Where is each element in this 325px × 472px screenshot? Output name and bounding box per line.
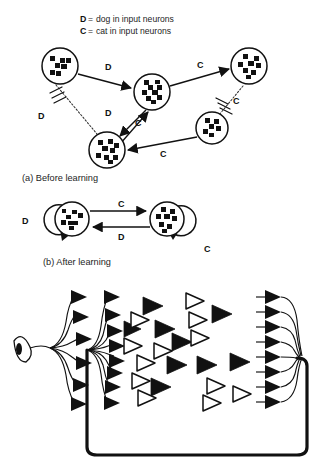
edge-label-d-backward: D bbox=[118, 232, 125, 242]
neuron-top-right bbox=[231, 48, 267, 84]
legend-key-c: C bbox=[80, 26, 87, 36]
neuron-right bbox=[150, 202, 184, 236]
figure-container: D = dog in input neurons C = cat in inpu… bbox=[0, 0, 325, 472]
edge-bottom-to-center bbox=[120, 112, 148, 144]
edge-center-to-topright bbox=[170, 69, 229, 86]
edge-center-to-bottom bbox=[120, 110, 146, 136]
hatch-mark-left bbox=[50, 87, 66, 103]
legend-text-c: cat in input neurons bbox=[96, 26, 171, 36]
legend-eq-c: = bbox=[88, 26, 93, 36]
edge-label-c-top: C bbox=[197, 60, 204, 70]
self-loop-label-c: C bbox=[204, 244, 211, 254]
output-layer-arrows bbox=[265, 290, 281, 409]
eye-icon bbox=[14, 337, 50, 362]
edge-label-d-top: D bbox=[105, 62, 112, 72]
legend-text-d: dog in input neurons bbox=[96, 14, 174, 24]
legend: D = dog in input neurons C = cat in inpu… bbox=[80, 14, 174, 36]
output-convergence-fan bbox=[281, 297, 302, 402]
edge-label-d-left: D bbox=[38, 111, 45, 121]
self-loop-label-d: D bbox=[22, 216, 29, 226]
edge-label-c-bottom: C bbox=[160, 149, 167, 159]
panel-c bbox=[14, 290, 307, 455]
edge-label-c-right: C bbox=[233, 96, 240, 106]
panel-a-caption: (a) Before learning bbox=[22, 173, 98, 183]
second-layer-arrows bbox=[104, 290, 125, 410]
edge-label-c-forward: C bbox=[118, 199, 125, 209]
legend-eq-d: = bbox=[88, 14, 93, 24]
edge-label-c-mid: C bbox=[135, 118, 142, 128]
neuron-center bbox=[134, 74, 170, 110]
neuron-left bbox=[55, 202, 89, 236]
panel-a-nodes bbox=[42, 48, 267, 168]
edge-label-d-mid: D bbox=[105, 108, 112, 118]
panel-b-caption: (b) After learning bbox=[43, 257, 111, 267]
neuron-bottom bbox=[89, 132, 125, 168]
hatch-mark-right bbox=[216, 98, 232, 114]
neuron-mid-right bbox=[196, 112, 228, 144]
figure-svg: D = dog in input neurons C = cat in inpu… bbox=[0, 0, 325, 472]
edge-topleft-to-center bbox=[78, 74, 131, 88]
neuron-top-left bbox=[42, 48, 78, 84]
legend-key-d: D bbox=[80, 14, 86, 24]
